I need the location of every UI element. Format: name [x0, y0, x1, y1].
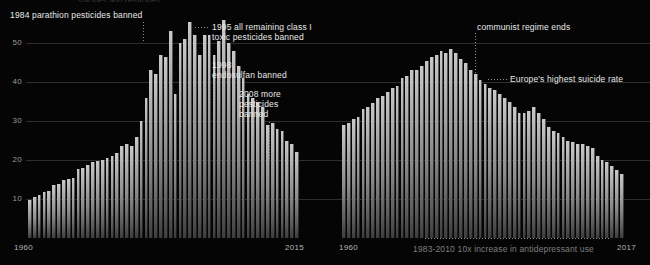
bar	[96, 161, 100, 238]
bar	[33, 197, 37, 238]
bar	[523, 113, 527, 238]
bar	[115, 153, 119, 238]
bar	[532, 107, 536, 238]
left-chart-panel: 1020304050 1984 parathion pesticides ban…	[0, 0, 325, 265]
bar	[261, 107, 265, 238]
bar	[405, 76, 409, 238]
bar	[362, 109, 366, 238]
bar	[72, 178, 76, 238]
bar	[347, 123, 351, 238]
annotation-leader-europe	[488, 79, 508, 80]
bar	[479, 80, 483, 238]
bar	[52, 185, 56, 238]
bar	[198, 55, 202, 238]
bar	[542, 119, 546, 238]
right-bar-series	[325, 0, 650, 265]
bar	[415, 70, 419, 238]
bar	[562, 137, 566, 238]
bar	[459, 59, 463, 238]
bar	[503, 98, 507, 238]
bar	[571, 142, 575, 238]
bar	[396, 86, 400, 238]
bar	[425, 61, 429, 238]
left-xtick-start: 1960	[14, 244, 33, 252]
bar	[120, 146, 124, 238]
annotation-leader-2008	[269, 122, 270, 160]
bar	[508, 102, 512, 239]
right-chart-panel: communist regime ends Europe's highest s…	[325, 0, 650, 265]
bar	[469, 70, 473, 238]
bar	[135, 137, 139, 238]
bar	[145, 98, 149, 238]
annotation-1998-endosulfan: 1998 endosulfan banned	[212, 60, 287, 80]
bar	[371, 103, 375, 238]
annotation-europes-highest-suicide-rate: Europe's highest suicide rate	[510, 74, 623, 84]
bar	[576, 144, 580, 238]
annotation-leader-communist	[475, 33, 476, 73]
annotation-1984-parathion: 1984 parathion pesticides banned	[10, 10, 142, 20]
bar	[605, 162, 609, 238]
bar	[174, 94, 178, 238]
bar	[449, 49, 453, 238]
annotation-communist-regime-ends: communist regime ends	[477, 22, 570, 32]
annotation-leader-1998	[213, 82, 214, 102]
bar	[295, 152, 299, 238]
bar	[454, 53, 458, 238]
bar	[518, 113, 522, 238]
bar	[493, 90, 497, 238]
bar	[581, 144, 585, 238]
bar	[410, 70, 414, 238]
bar	[615, 170, 619, 238]
bar	[154, 74, 158, 238]
bar	[81, 168, 85, 238]
bar	[101, 160, 105, 238]
bar	[256, 102, 260, 239]
bar	[140, 121, 144, 238]
bar	[376, 98, 380, 238]
bar	[159, 55, 163, 238]
bar	[474, 74, 478, 238]
bar	[444, 53, 448, 238]
right-xtick-start: 1960	[339, 244, 358, 252]
bar	[596, 156, 600, 238]
bar	[386, 92, 390, 238]
bar	[57, 184, 61, 238]
bar	[179, 43, 183, 238]
bar	[420, 66, 424, 238]
bar	[610, 166, 614, 238]
bar	[222, 20, 226, 238]
bar	[91, 162, 95, 238]
bar	[488, 88, 492, 238]
bar	[430, 57, 434, 238]
bar	[527, 111, 531, 238]
bar	[484, 84, 488, 238]
bar	[440, 51, 444, 238]
annotation-2008-more-pesticides: 2008 more pesticides banned	[239, 89, 281, 119]
bar	[47, 191, 51, 238]
bar	[62, 180, 66, 239]
bar	[169, 31, 173, 238]
bar	[381, 96, 385, 238]
bar	[38, 195, 42, 238]
annotation-antidepressant-use: 1983-2010 10x increase in antidepressant…	[413, 244, 594, 254]
bar	[352, 119, 356, 238]
left-xtick-end: 2015	[285, 244, 304, 252]
bar	[203, 35, 207, 238]
bar	[28, 200, 32, 238]
bar	[149, 70, 153, 238]
bar	[566, 141, 570, 239]
bar	[547, 127, 551, 238]
bar	[281, 131, 285, 238]
bar	[77, 169, 81, 238]
bar	[276, 129, 280, 238]
bar	[342, 125, 346, 238]
bar	[498, 94, 502, 238]
bar	[552, 131, 556, 238]
bar	[391, 88, 395, 238]
bar	[557, 133, 561, 238]
right-xtick-end: 2017	[617, 244, 636, 252]
bar	[285, 141, 289, 239]
figure-root: suicides and pesticides 1020304050 1984 …	[0, 0, 650, 265]
bar	[67, 179, 71, 238]
annotation-leader-1995	[195, 27, 210, 28]
